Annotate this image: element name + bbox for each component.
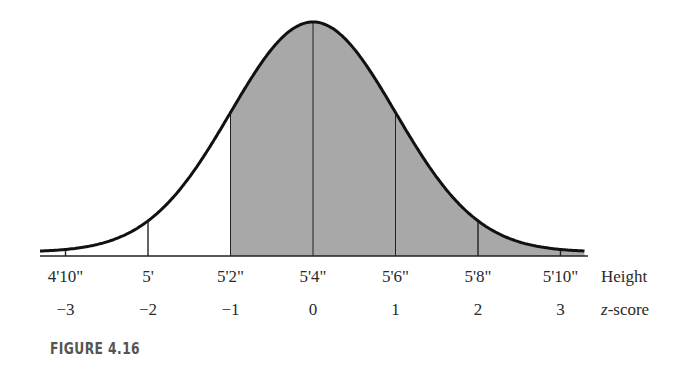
- height-tick-label: 5'2": [217, 267, 244, 287]
- z-tick-label: 3: [556, 300, 565, 320]
- height-axis-label: Height: [601, 267, 647, 287]
- figure-caption: FIGURE 4.16: [50, 340, 140, 358]
- z-tick-label: −3: [56, 300, 74, 320]
- z-tick-label: 0: [309, 300, 318, 320]
- height-tick-label: 4'10": [48, 267, 84, 287]
- height-tick-label: 5': [142, 267, 154, 287]
- z-tick-label: −1: [221, 300, 239, 320]
- z-tick-label: 1: [391, 300, 400, 320]
- z-tick-label: 2: [474, 300, 483, 320]
- height-tick-label: 5'10": [543, 267, 579, 287]
- height-tick-label: 5'8": [464, 267, 491, 287]
- z-score-axis-label: z-score: [601, 300, 649, 320]
- height-tick-label: 5'6": [382, 267, 409, 287]
- height-tick-label: 5'4": [299, 267, 326, 287]
- normal-curve-chart: [0, 0, 693, 372]
- z-tick-label: −2: [139, 300, 157, 320]
- shaded-area: [231, 22, 586, 256]
